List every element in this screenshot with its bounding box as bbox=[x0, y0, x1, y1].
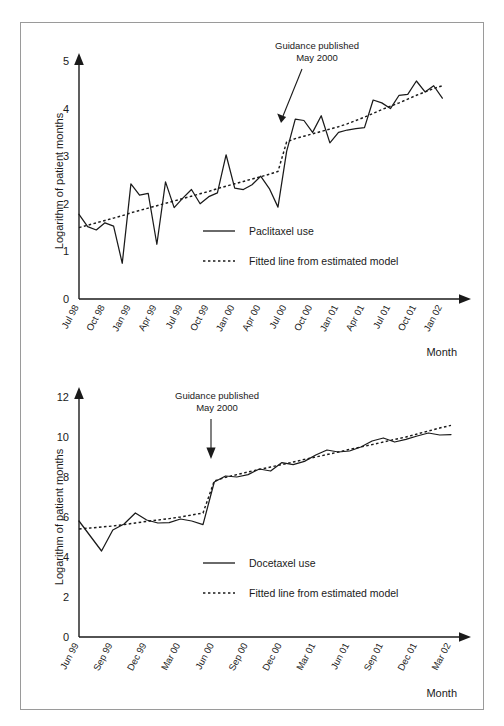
x-tick-label: Jan 99 bbox=[110, 303, 133, 333]
y-tick-label: 4 bbox=[63, 103, 69, 115]
chart-panel-paclitaxel: 012345 Jul 98Oct 98Jan 99Apr 99Jul 99Oct… bbox=[21, 23, 485, 367]
x-tick-label: Dec 01 bbox=[395, 641, 419, 673]
x-tick-label: Jul 01 bbox=[371, 303, 393, 331]
annotation-line1-top: Guidance published bbox=[275, 40, 359, 51]
x-tick-label: Jan 00 bbox=[213, 303, 236, 333]
x-axis-title-top: Month bbox=[426, 346, 457, 358]
x-tick-label: Apr 99 bbox=[136, 303, 159, 333]
legend-solid-label-top: Paclitaxel use bbox=[249, 225, 314, 237]
legend-dotted-label-bottom: Fitted line from estimated model bbox=[249, 587, 398, 599]
figure-page: 012345 Jul 98Oct 98Jan 99Apr 99Jul 99Oct… bbox=[0, 0, 504, 726]
x-tick-label: Sep 00 bbox=[226, 641, 250, 673]
x-tick-label: Sep 01 bbox=[361, 641, 385, 673]
paclitaxel-chart-svg: 012345 Jul 98Oct 98Jan 99Apr 99Jul 99Oct… bbox=[21, 23, 485, 367]
annotation-group-top: Guidance published May 2000 bbox=[275, 40, 359, 123]
x-axis-arrowhead-bottom bbox=[459, 632, 471, 642]
x-tick-label: Jun 00 bbox=[193, 641, 216, 671]
legend-top: Paclitaxel use Fitted line from estimate… bbox=[203, 225, 398, 267]
legend-dotted-label-top: Fitted line from estimated model bbox=[249, 255, 398, 267]
x-tick-label: Dec 99 bbox=[125, 641, 149, 673]
annotation-line2-bottom: May 2000 bbox=[196, 402, 238, 413]
x-tick-label: Oct 01 bbox=[395, 303, 418, 333]
annotation-arrowhead-top bbox=[277, 113, 286, 123]
data-line-docetaxel bbox=[79, 433, 451, 551]
x-tick-label: Jul 99 bbox=[163, 303, 185, 331]
x-tick-label: Dec 00 bbox=[260, 641, 284, 673]
x-tick-labels-bottom: Jun 99Sep 99Dec 99Mar 00Jun 00Sep 00Dec … bbox=[58, 641, 453, 673]
y-tick-label: 5 bbox=[63, 55, 69, 67]
y-tick-label: 12 bbox=[57, 391, 69, 403]
y-axis-arrowhead-bottom bbox=[74, 387, 84, 399]
x-tick-label: Jul 98 bbox=[59, 303, 81, 331]
y-tick-label: 0 bbox=[63, 631, 69, 643]
y-axis-title-top: Logarithm of patient months bbox=[53, 112, 65, 249]
docetaxel-chart-svg: 024681012 Jun 99Sep 99Dec 99Mar 00Jun 00… bbox=[21, 367, 485, 711]
x-tick-label: Oct 99 bbox=[188, 303, 211, 333]
x-tick-label: Mar 01 bbox=[294, 641, 318, 672]
x-axis-title-bottom: Month bbox=[426, 687, 457, 699]
x-tick-label: Jun 99 bbox=[58, 641, 81, 671]
annotation-line2-top: May 2000 bbox=[296, 52, 338, 63]
y-tick-label: 10 bbox=[57, 431, 69, 443]
annotation-arrow-top bbox=[283, 69, 302, 116]
x-tick-label: Sep 99 bbox=[91, 641, 115, 673]
x-tick-label: Mar 02 bbox=[429, 641, 453, 672]
y-axis-title-bottom: Logarithm of patient months bbox=[53, 448, 65, 585]
x-tick-label: Jan 01 bbox=[317, 303, 340, 333]
x-tick-labels-top: Jul 98Oct 98Jan 99Apr 99Jul 99Oct 99Jan … bbox=[59, 303, 444, 333]
x-tick-label: Jun 01 bbox=[328, 641, 351, 671]
legend-solid-label-bottom: Docetaxel use bbox=[249, 557, 316, 569]
x-axis-arrowhead-top bbox=[459, 294, 471, 304]
figure-border: 012345 Jul 98Oct 98Jan 99Apr 99Jul 99Oct… bbox=[20, 22, 484, 710]
x-tick-label: Apr 01 bbox=[343, 303, 366, 333]
x-tick-label: Mar 00 bbox=[159, 641, 183, 672]
chart-panel-docetaxel: 024681012 Jun 99Sep 99Dec 99Mar 00Jun 00… bbox=[21, 367, 485, 711]
annotation-arrowhead-bottom bbox=[206, 448, 215, 459]
x-tick-label: Oct 98 bbox=[84, 303, 107, 333]
y-axis-arrowhead-top bbox=[74, 53, 84, 65]
x-tick-label: Apr 00 bbox=[240, 303, 263, 333]
y-tick-label: 0 bbox=[63, 293, 69, 305]
annotation-line1-bottom: Guidance published bbox=[175, 390, 259, 401]
x-tick-label: Jul 00 bbox=[267, 303, 289, 331]
legend-bottom: Docetaxel use Fitted line from estimated… bbox=[203, 557, 398, 599]
y-tick-label: 2 bbox=[63, 591, 69, 603]
annotation-group-bottom: Guidance published May 2000 bbox=[175, 390, 259, 459]
x-tick-label: Oct 00 bbox=[291, 303, 314, 333]
x-tick-label: Jan 02 bbox=[421, 303, 444, 333]
